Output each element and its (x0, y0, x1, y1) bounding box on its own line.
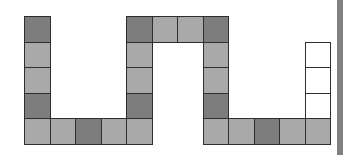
path-cell (203, 67, 230, 94)
path-cell (126, 93, 153, 120)
path-cell (177, 16, 204, 43)
path-cell (24, 67, 51, 94)
empty-cell (305, 67, 332, 94)
path-cell (126, 67, 153, 94)
path-cell (24, 42, 51, 69)
pattern-board (0, 0, 343, 155)
path-cell (305, 118, 332, 145)
path-cell (228, 118, 255, 145)
empty-cell (305, 93, 332, 120)
path-cell (254, 118, 281, 145)
path-cell (24, 118, 51, 145)
path-cell (203, 16, 230, 43)
path-cell (203, 93, 230, 120)
path-cell (126, 16, 153, 43)
path-cell (101, 118, 128, 145)
path-cell (126, 118, 153, 145)
path-cell (152, 16, 179, 43)
path-cell (279, 118, 306, 145)
empty-cell (305, 42, 332, 69)
path-cell (50, 118, 77, 145)
side-bar (337, 0, 343, 155)
path-cell (203, 42, 230, 69)
path-cell (75, 118, 102, 145)
path-cell (203, 118, 230, 145)
path-cell (126, 42, 153, 69)
path-cell (24, 16, 51, 43)
path-cell (24, 93, 51, 120)
